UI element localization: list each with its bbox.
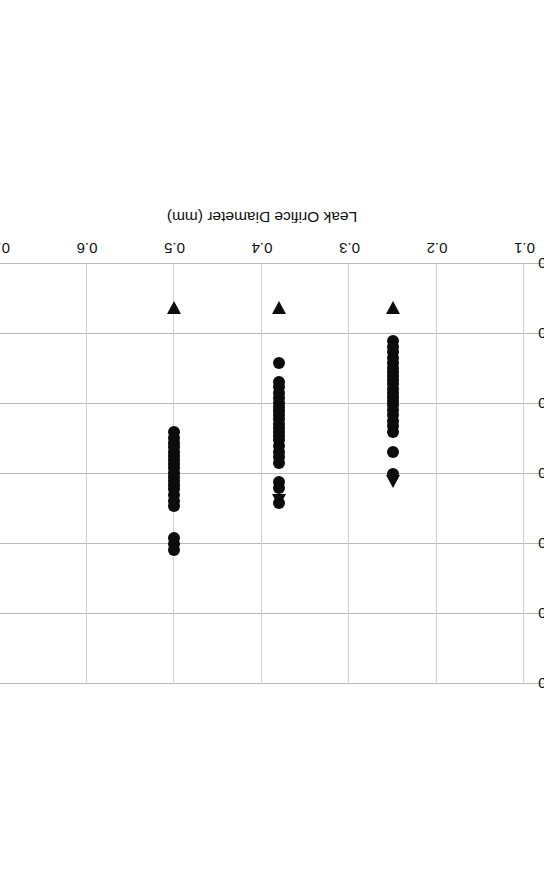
- x-tick-label: 0.2: [407, 241, 467, 256]
- x-tick-label: 0.7: [0, 241, 30, 256]
- y-tick-label: 30.00: [538, 676, 544, 691]
- y-tick-label: 15.00: [538, 466, 544, 481]
- gridline-horizontal: [0, 683, 544, 684]
- x-tick-label: 0.1: [495, 241, 544, 256]
- x-tick-label: 0.3: [320, 241, 380, 256]
- gridline-vertical: [349, 264, 350, 684]
- x-tick-label: 0.5: [145, 241, 205, 256]
- data-point-triangle: [386, 301, 400, 314]
- data-point-circle: [274, 357, 286, 369]
- x-axis-title: Leak Orifice Diameter (mm): [0, 208, 544, 226]
- gridline-vertical: [86, 264, 87, 684]
- gridline-vertical: [524, 264, 525, 684]
- data-point-triangle: [273, 301, 287, 314]
- gridline-horizontal: [0, 543, 544, 544]
- gridline-vertical: [261, 264, 262, 684]
- y-tick-label: 5.00: [538, 326, 544, 341]
- x-tick-label: 0.4: [232, 241, 292, 256]
- rotated-figure-wrapper: 0.005.0010.0015.0020.0025.0030.00 00.10.…: [0, 0, 544, 872]
- gridline-horizontal: [0, 403, 544, 404]
- gridline-vertical: [436, 264, 437, 684]
- y-tick-label: 0.00: [538, 256, 544, 271]
- data-point-circle: [387, 446, 399, 458]
- data-point-triangle: [386, 475, 400, 488]
- y-tick-label: 20.00: [538, 536, 544, 551]
- y-tick-label: 25.00: [538, 606, 544, 621]
- plot-area: [0, 264, 544, 684]
- data-point-triangle: [168, 301, 182, 314]
- scatter-figure: 0.005.0010.0015.0020.0025.0030.00 00.10.…: [0, 164, 544, 708]
- x-tick-label: 0.6: [57, 241, 117, 256]
- gridline-horizontal: [0, 263, 544, 264]
- gridline-horizontal: [0, 613, 544, 614]
- chart-page: 0.005.0010.0015.0020.0025.0030.00 00.10.…: [0, 0, 544, 872]
- data-point-triangle: [273, 494, 287, 507]
- y-tick-label: 10.00: [538, 396, 544, 411]
- gridline-horizontal: [0, 473, 544, 474]
- gridline-horizontal: [0, 333, 544, 334]
